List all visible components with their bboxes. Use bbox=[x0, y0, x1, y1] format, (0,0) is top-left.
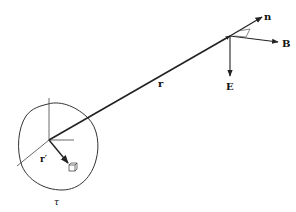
label-r-prime: r′ bbox=[40, 154, 48, 164]
source-region-boundary bbox=[19, 103, 98, 190]
r-prime-arrow bbox=[49, 140, 68, 163]
label-E: E bbox=[226, 81, 234, 92]
B-arrow bbox=[230, 36, 278, 42]
n-arrow bbox=[230, 17, 262, 36]
label-r: r bbox=[158, 78, 164, 89]
label-B: B bbox=[282, 38, 290, 49]
label-n: n bbox=[264, 11, 272, 22]
label-tau: τ bbox=[54, 197, 60, 207]
right-angle-marker bbox=[234, 29, 250, 37]
volume-element-cube-icon bbox=[69, 163, 77, 171]
radiation-diagram: n B E r r′ τ bbox=[0, 0, 296, 212]
r-tip-arrow bbox=[222, 36, 230, 41]
r-vector bbox=[49, 36, 230, 140]
